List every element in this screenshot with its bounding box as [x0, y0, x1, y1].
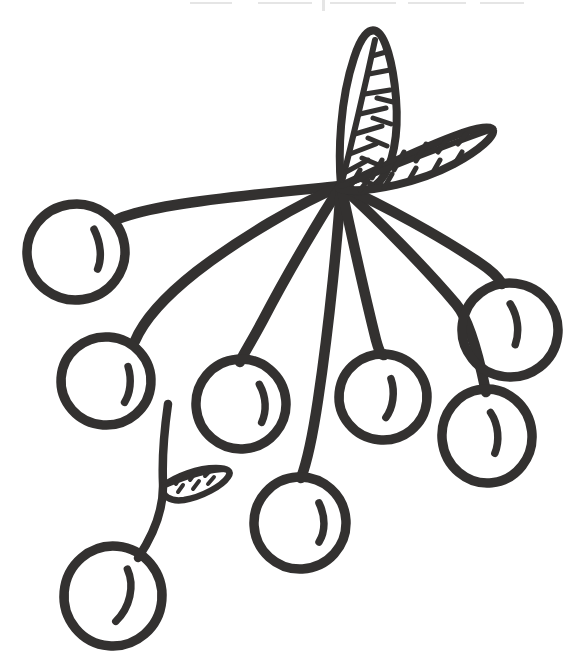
scan-speck-e: [480, 2, 524, 4]
cherry-mid-left-highlight: [125, 366, 132, 402]
cherry-bottom-left-outline: [60, 542, 166, 650]
cherry-upper-left-highlight: [92, 229, 103, 269]
cherry-bottom-left: [60, 542, 166, 650]
scan-speck-a: [190, 2, 232, 4]
cherry-mid-left-outline: [58, 334, 154, 428]
cherry-center: [335, 350, 432, 445]
cherry-center-highlight: [386, 379, 395, 418]
cherry-center-outline: [335, 350, 432, 445]
leaf-small-lower-vein-4: [178, 485, 183, 492]
drawing-canvas: Cherry Cluster Line Drawing: [0, 0, 573, 671]
leaf-small-lower-vein-5: [193, 481, 199, 489]
leaf-upright-vein-6: [369, 70, 390, 74]
scan-tick: [322, 0, 325, 11]
scan-speck-c: [330, 2, 396, 4]
cherry-right-upper-highlight: [505, 304, 521, 345]
cherry-mid-left: [58, 334, 154, 428]
stem-branch-lower-left: [138, 404, 168, 558]
cherry-center-left-highlight: [258, 384, 266, 422]
scan-speck-b: [258, 2, 312, 4]
cherry-right-lower-outline: [437, 385, 536, 488]
cherry-right-lower: [437, 385, 536, 488]
stem-to-lower-mid: [301, 186, 341, 478]
leaf-upright-vein-5: [365, 90, 390, 94]
cherry-upper-left: [21, 198, 131, 307]
scan-speck-d: [408, 2, 466, 4]
cherry-right-lower-highlight: [491, 412, 500, 453]
leaf-small-lower: [163, 468, 230, 500]
leaf-upright-vein-3: [355, 126, 382, 134]
leaf-upright-vein-4: [360, 108, 386, 114]
cherry-bottom-left-highlight: [116, 569, 133, 623]
cherry-center-left: [192, 355, 290, 453]
cherry-lower-mid: [252, 475, 349, 572]
cherry-lower-mid-outline: [252, 475, 349, 572]
cherry-upper-left-outline: [21, 198, 131, 307]
leaf-upright-vein-12: [377, 98, 393, 102]
cherry-lower-mid-highlight: [317, 503, 325, 542]
leaf-small-lower-vein-6: [208, 477, 214, 484]
cherry-cluster-illustration: [0, 0, 573, 671]
cherry-center-left-outline: [192, 355, 290, 453]
leaf-upright-vein-11: [373, 118, 391, 124]
